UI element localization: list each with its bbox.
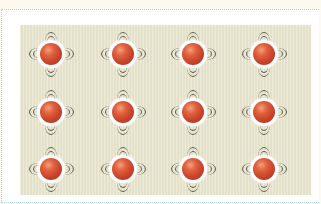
motion-arc-icon — [175, 165, 181, 173]
vibrating-ball-icon — [98, 144, 148, 194]
ball-grid — [20, 25, 311, 195]
red-ball — [40, 43, 62, 65]
red-ball — [253, 43, 275, 65]
motion-arc-icon — [47, 94, 55, 100]
motion-arc-icon — [47, 36, 55, 42]
red-ball — [182, 158, 204, 180]
motion-arc-icon — [105, 165, 111, 173]
motion-arc-icon — [260, 36, 268, 42]
motion-arc-icon — [105, 50, 111, 58]
illustration-panel — [20, 25, 311, 195]
vibrating-ball-icon — [26, 144, 76, 194]
vibrating-ball-icon — [239, 144, 289, 194]
red-ball — [112, 43, 134, 65]
red-ball — [182, 43, 204, 65]
motion-arc-icon — [119, 94, 127, 100]
red-ball — [112, 101, 134, 123]
motion-arc-icon — [189, 94, 197, 100]
vibrating-ball-icon — [168, 29, 218, 79]
red-ball — [182, 101, 204, 123]
vibrating-ball-icon — [168, 144, 218, 194]
vibrating-ball-icon — [239, 87, 289, 137]
red-ball — [40, 101, 62, 123]
red-ball — [253, 158, 275, 180]
vibrating-ball-icon — [168, 87, 218, 137]
motion-arc-icon — [119, 151, 127, 157]
motion-arc-icon — [175, 50, 181, 58]
vibrating-ball-icon — [98, 29, 148, 79]
motion-arc-icon — [189, 36, 197, 42]
red-ball — [253, 101, 275, 123]
motion-arc-icon — [175, 108, 181, 116]
motion-arc-icon — [189, 151, 197, 157]
motion-arc-icon — [246, 50, 252, 58]
vibrating-ball-icon — [98, 87, 148, 137]
motion-arc-icon — [246, 165, 252, 173]
vibrating-ball-icon — [239, 29, 289, 79]
motion-arc-icon — [33, 50, 39, 58]
motion-arc-icon — [119, 36, 127, 42]
motion-arc-icon — [260, 94, 268, 100]
motion-arc-icon — [260, 151, 268, 157]
motion-arc-icon — [105, 108, 111, 116]
motion-arc-icon — [33, 108, 39, 116]
motion-arc-icon — [246, 108, 252, 116]
red-ball — [40, 158, 62, 180]
top-strip — [0, 0, 321, 9]
vibrating-ball-icon — [26, 29, 76, 79]
vibrating-ball-icon — [26, 87, 76, 137]
motion-arc-icon — [33, 165, 39, 173]
red-ball — [112, 158, 134, 180]
motion-arc-icon — [47, 151, 55, 157]
